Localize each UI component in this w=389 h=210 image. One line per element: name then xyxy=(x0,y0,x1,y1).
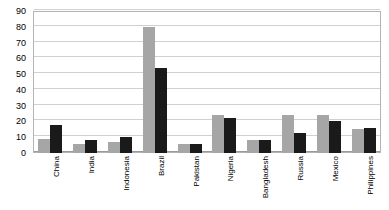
bar xyxy=(247,140,259,153)
bar xyxy=(329,121,341,153)
gridline xyxy=(34,9,380,10)
bar xyxy=(120,137,132,153)
x-tick-label: Bangladesh xyxy=(262,156,270,198)
bar-group xyxy=(172,11,207,153)
bar-chart: 0102030405060708090 ChinaIndiaIndonesiaB… xyxy=(0,0,389,210)
y-tick-label: 30 xyxy=(16,101,26,110)
x-tick-label: Nigeria xyxy=(227,156,235,181)
bars-layer xyxy=(33,11,381,153)
y-tick-label: 0 xyxy=(21,149,26,158)
bar xyxy=(155,68,167,153)
y-tick-label: 70 xyxy=(16,38,26,47)
bar xyxy=(73,144,85,153)
x-tick-label: Mexico xyxy=(332,156,340,181)
bar-group xyxy=(277,11,312,153)
x-tick-label: Pakistan xyxy=(193,156,201,187)
x-tick-label: Russia xyxy=(297,156,305,180)
y-axis: 0102030405060708090 xyxy=(0,11,30,153)
bar xyxy=(108,142,120,153)
x-tick-label: China xyxy=(53,156,61,177)
bar xyxy=(282,115,294,153)
bar xyxy=(352,129,364,153)
bar-group xyxy=(103,11,138,153)
y-tick-label: 40 xyxy=(16,85,26,94)
y-tick-label: 90 xyxy=(16,7,26,16)
y-tick-label: 10 xyxy=(16,133,26,142)
bar xyxy=(190,144,202,153)
bar-group xyxy=(311,11,346,153)
x-tick-label: Brazil xyxy=(158,156,166,176)
bar xyxy=(143,27,155,153)
bar xyxy=(294,133,306,154)
bar-group xyxy=(33,11,68,153)
y-tick-label: 20 xyxy=(16,117,26,126)
bar xyxy=(50,125,62,153)
y-tick-label: 80 xyxy=(16,22,26,31)
bar xyxy=(85,140,97,153)
bar xyxy=(317,115,329,153)
bar-group xyxy=(137,11,172,153)
bar xyxy=(178,144,190,153)
bar xyxy=(38,139,50,153)
bar-group xyxy=(346,11,381,153)
bar xyxy=(224,118,236,153)
bar-group xyxy=(242,11,277,153)
y-tick-label: 50 xyxy=(16,70,26,79)
bar xyxy=(259,140,271,153)
bar xyxy=(212,115,224,153)
bar xyxy=(364,128,376,153)
y-tick-label: 60 xyxy=(16,54,26,63)
bar-group xyxy=(207,11,242,153)
bar-group xyxy=(68,11,103,153)
x-axis: ChinaIndiaIndonesiaBrazilPakistanNigeria… xyxy=(33,156,381,210)
x-tick-label: Indonesia xyxy=(123,156,131,191)
x-tick-label: Philippines xyxy=(367,156,375,195)
x-tick-label: India xyxy=(88,156,96,173)
